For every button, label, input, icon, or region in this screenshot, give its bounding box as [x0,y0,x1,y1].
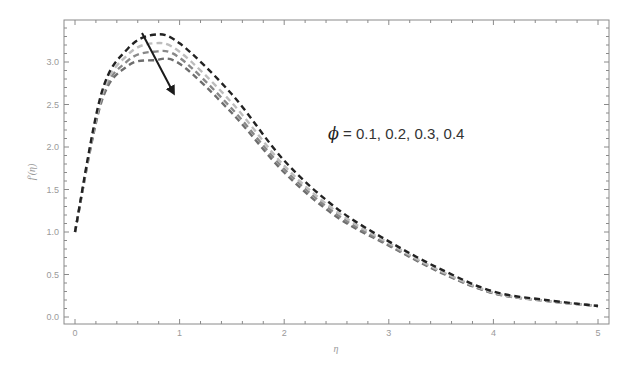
x-tick-label: 0 [72,328,77,338]
y-tick-label: 3.0 [46,57,59,67]
x-tick-label: 2 [282,328,287,338]
series-line-3 [75,51,598,306]
data-series [75,34,598,306]
line-chart: 0123450.00.51.01.52.02.53.0 ϕ = 0.1, 0.2… [0,0,634,371]
x-tick-label: 1 [177,328,182,338]
y-tick-label: 2.5 [46,100,59,110]
series-line-2 [75,43,598,306]
phi-symbol: ϕ [328,124,339,143]
plot-frame [64,20,609,324]
y-axis-title: f′(η) [26,163,38,180]
x-tick-label: 3 [386,328,391,338]
series-line-4 [75,59,598,306]
annotation-label: ϕ = 0.1, 0.2, 0.3, 0.4 [328,124,464,143]
axis-ticks [64,20,609,324]
phi-values: = 0.1, 0.2, 0.3, 0.4 [339,125,465,142]
y-tick-label: 2.0 [46,142,59,152]
y-tick-label: 1.5 [46,185,59,195]
y-tick-label: 1.0 [46,227,59,237]
x-axis-title: η [334,343,339,354]
y-tick-label: 0.5 [46,270,59,280]
x-tick-label: 4 [491,328,496,338]
series-line-1 [75,34,598,306]
y-tick-label: 0.0 [46,312,59,322]
x-tick-label: 5 [595,328,600,338]
